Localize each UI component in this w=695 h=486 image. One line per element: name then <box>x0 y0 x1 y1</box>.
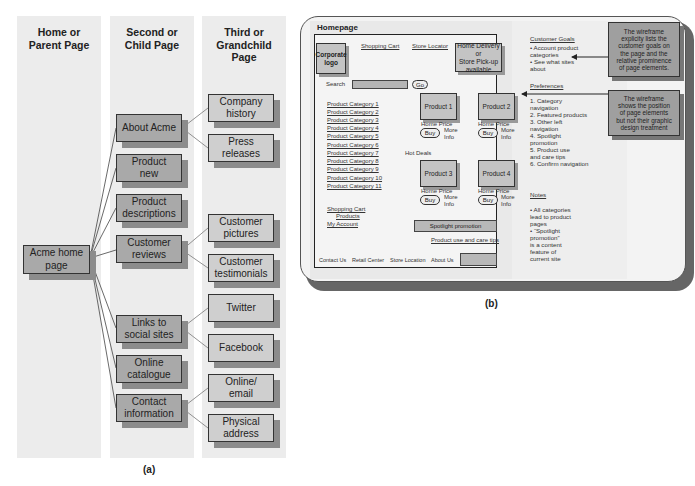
annotation-arrows <box>0 0 695 486</box>
caption-b: (b) <box>485 298 498 309</box>
